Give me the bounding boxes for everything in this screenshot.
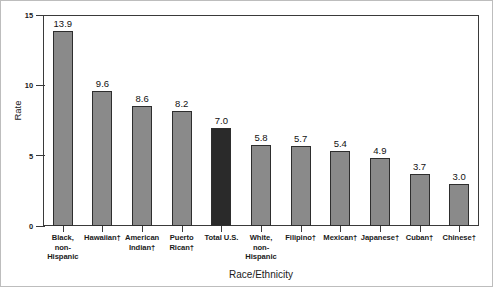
x-axis-category-label: American Indian† (120, 233, 164, 252)
x-axis-tick (221, 226, 222, 232)
y-axis-tick (36, 226, 45, 227)
x-axis-tick (340, 226, 341, 232)
bar (291, 146, 311, 226)
bar-value-label: 9.6 (82, 78, 122, 89)
bar (211, 128, 231, 226)
bar-value-label: 3.7 (400, 161, 440, 172)
y-axis-tick (36, 155, 45, 156)
x-axis-category-label: Mexican† (318, 233, 362, 243)
bar-value-label: 13.9 (43, 18, 83, 29)
bar (410, 174, 430, 226)
x-axis-tick (261, 226, 262, 232)
bar-chart-figure: 051015 Rate 13.99.68.68.27.05.85.75.44.9… (0, 0, 495, 289)
bar (172, 111, 192, 226)
x-axis-tick (380, 226, 381, 232)
bar-value-label: 8.6 (122, 93, 162, 104)
x-axis-tick (102, 226, 103, 232)
x-axis-tick (459, 226, 460, 232)
y-axis-tick-label: 15 (3, 11, 33, 20)
x-axis-category-label: Japanese† (358, 233, 402, 243)
bar (370, 158, 390, 227)
bar-value-label: 5.8 (241, 132, 281, 143)
x-axis-title: Race/Ethnicity (43, 269, 479, 280)
bar-value-label: 5.7 (281, 133, 321, 144)
x-axis-tick (420, 226, 421, 232)
x-axis-tick (301, 226, 302, 232)
bar (251, 145, 271, 227)
x-axis-tick (182, 226, 183, 232)
x-axis-category-label: Chinese† (437, 233, 481, 243)
x-axis-category-label: White, non- Hispanic (239, 233, 283, 262)
bar (92, 91, 112, 226)
x-axis-tick (142, 226, 143, 232)
x-axis-category-label: Total U.S. (199, 233, 243, 243)
bar (330, 151, 350, 227)
bar (53, 31, 73, 227)
bar-value-label: 5.4 (320, 138, 360, 149)
bar (449, 184, 469, 226)
x-axis-category-label: Puerto Rican† (160, 233, 204, 252)
x-axis-category-label: Cuban† (398, 233, 442, 243)
y-axis-tick-label: 5 (3, 152, 33, 161)
y-axis-tick (36, 15, 45, 16)
bar (132, 106, 152, 227)
bar-value-label: 7.0 (201, 115, 241, 126)
y-axis-title: Rate (12, 81, 23, 141)
bar-value-label: 4.9 (360, 145, 400, 156)
x-axis-category-label: Filipino† (279, 233, 323, 243)
bar-value-label: 3.0 (439, 171, 479, 182)
x-axis-category-label: Hawaiian† (80, 233, 124, 243)
y-axis-tick (36, 85, 45, 86)
y-axis-tick-label: 0 (3, 222, 33, 231)
x-axis-category-label: Black, non- Hispanic (41, 233, 85, 262)
bar-value-label: 8.2 (162, 98, 202, 109)
x-axis-tick (63, 226, 64, 232)
